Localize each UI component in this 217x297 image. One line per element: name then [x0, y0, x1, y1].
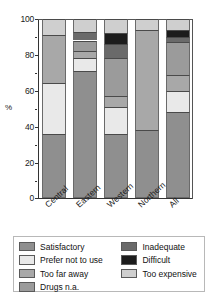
bar-segment: [73, 19, 97, 32]
plot-area: % 100 80 60 40 20 0 CentralEaster: [0, 0, 217, 215]
bar-segment: [166, 30, 190, 37]
bar-segment: [73, 32, 97, 41]
legend-swatch-icon: [19, 269, 35, 279]
legend-label: Satisfactory: [40, 242, 84, 252]
legend-label: Prefer not to use: [40, 255, 103, 265]
legend-swatch-icon: [121, 269, 137, 279]
bar-segment: [73, 51, 97, 58]
bar-segment: [135, 30, 159, 130]
bar-segment: [104, 58, 128, 96]
bar-segment: [166, 42, 190, 74]
legend-item: Too expensive: [121, 268, 199, 279]
bar-segment: [135, 19, 159, 30]
legend-swatch-icon: [19, 282, 35, 292]
y-tick-label: 20: [12, 158, 34, 168]
bar-segment: [166, 112, 190, 198]
bar-northern: [135, 19, 159, 198]
bar-segment: [42, 35, 66, 83]
legend-item: Satisfactory: [19, 241, 117, 252]
y-tick-label: 100: [12, 14, 34, 24]
y-tick-label: 60: [12, 86, 34, 96]
legend-item: Difficult: [121, 255, 199, 266]
bar-eastern: [73, 19, 97, 198]
bar-central: [42, 19, 66, 198]
bar-segment: [166, 75, 190, 91]
bar-all: [166, 19, 190, 198]
bar-segment: [104, 19, 128, 33]
bar-segment: [42, 19, 66, 35]
y-tick-label: 80: [12, 50, 34, 60]
legend-item: Drugs n.a.: [19, 282, 117, 293]
legend-column-right: InadequateDifficultToo expensive: [121, 241, 199, 293]
legend-label: Too expensive: [142, 269, 196, 279]
legend-label: Drugs n.a.: [40, 282, 79, 292]
bar-segment: [166, 19, 190, 30]
legend-column-left: SatisfactoryPrefer not to useToo far awa…: [19, 241, 117, 293]
bar-segment: [104, 44, 128, 58]
stacked-bar-chart: % 100 80 60 40 20 0 CentralEaster: [0, 0, 217, 297]
bar-segment: [73, 71, 97, 198]
bar-segment: [104, 33, 128, 44]
legend-swatch-icon: [19, 255, 35, 265]
legend-item: Inadequate: [121, 241, 199, 252]
y-axis-tick-labels: 100 80 60 40 20 0: [12, 0, 34, 215]
bar-segment: [166, 91, 190, 112]
chart-legend: SatisfactoryPrefer not to useToo far awa…: [13, 236, 205, 292]
legend-label: Inadequate: [142, 242, 185, 252]
bar-segment: [166, 37, 190, 42]
legend-swatch-icon: [121, 255, 137, 265]
x-axis-labels: CentralEasternWesternNorthernAll: [38, 199, 193, 239]
legend-item: Prefer not to use: [19, 255, 117, 266]
y-tick-label: 40: [12, 122, 34, 132]
legend-swatch-icon: [19, 242, 35, 252]
legend-label: Too far away: [40, 269, 88, 279]
legend-label: Difficult: [142, 255, 170, 265]
legend-item: Too far away: [19, 268, 117, 279]
bar-segment: [104, 96, 128, 107]
bar-group: [38, 19, 193, 198]
bar-segment: [73, 41, 97, 52]
bar-western: [104, 19, 128, 198]
bar-segment: [73, 58, 97, 71]
bar-segment: [42, 83, 66, 133]
legend-swatch-icon: [121, 242, 137, 252]
y-tick-label: 0: [12, 193, 34, 203]
bar-segment: [104, 107, 128, 134]
